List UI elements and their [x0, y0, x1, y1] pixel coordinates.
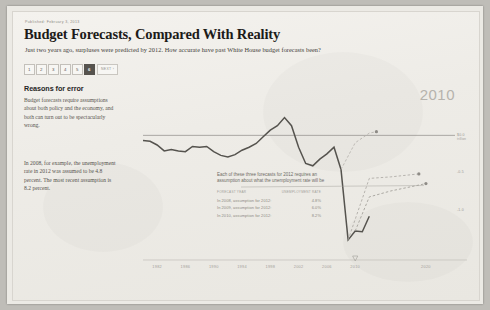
forecast-endpoint-marker [417, 172, 420, 175]
assumption-table: FORECAST YEAR UNEMPLOYMENT RATE In 2008,… [217, 191, 321, 219]
screenshot-root: Published: February 3, 2013 Budget Forec… [0, 0, 490, 310]
page-button-4[interactable]: 4 [60, 64, 71, 75]
y-tick-label: $0.0trillion [457, 133, 466, 141]
next-page-button[interactable]: NEXT › [97, 64, 118, 75]
unemployment-rate-cell: 8.2% [277, 211, 321, 218]
forecast-label-cell: In 2009, assumption for 2012: [217, 204, 277, 211]
x-tick-label: 2020 [421, 264, 431, 269]
assumption-rows: In 2008, assumption for 2012:4.8%In 2009… [217, 197, 321, 219]
unemployment-rate-cell: 6.0% [277, 204, 321, 211]
sidebar-paragraph-1: Budget forecasts require assumptions abo… [24, 96, 118, 130]
x-tick-label: 1994 [237, 264, 247, 269]
forecast-label-cell: In 2008, assumption for 2012: [217, 197, 277, 204]
y-tick-label: -1.0 [457, 208, 464, 212]
chart-annotation: Each of these three forecasts for 2012 r… [217, 172, 329, 219]
forecast-endpoint-marker [375, 130, 378, 133]
annotation-text: Each of these three forecasts for 2012 r… [217, 172, 329, 185]
series-line-3 [341, 132, 376, 170]
table-row: In 2009, assumption for 2012:6.0% [217, 204, 321, 211]
unemployment-rate-cell: 4.8% [277, 197, 321, 204]
x-tick-label: 2006 [322, 264, 332, 269]
sidebar-heading: Reasons for error [24, 84, 83, 93]
x-tick-label: 1998 [265, 264, 275, 269]
x-tick-label: 1982 [152, 264, 162, 269]
x-tick-label: 1990 [209, 264, 219, 269]
page-subtitle: Just two years ago, surpluses were predi… [25, 46, 321, 53]
y-tick-label: -0.5 [457, 170, 464, 174]
page-button-5[interactable]: 5 [72, 64, 83, 75]
x-tick-label: 2010 [350, 264, 360, 269]
page-button-2[interactable]: 2 [36, 64, 47, 75]
table-row: In 2008, assumption for 2012:4.8% [217, 197, 321, 204]
x-tick-label: 2002 [294, 264, 304, 269]
table-row: In 2010, assumption for 2012:8.2% [217, 211, 321, 218]
highlight-year-label: 2010 [420, 86, 455, 103]
sidebar-paragraph-2: In 2008, for example, the unemployment r… [24, 159, 118, 193]
page-button-6-active[interactable]: 6 [84, 64, 95, 75]
page-button-3[interactable]: 3 [48, 64, 59, 75]
x-tick-label: 1986 [181, 264, 191, 269]
publish-date: Published: February 3, 2013 [25, 20, 80, 24]
page-button-1[interactable]: 1 [24, 64, 35, 75]
series-line-2 [348, 174, 419, 240]
pagination[interactable]: 1 2 3 4 5 6 NEXT › [24, 64, 118, 75]
page-title: Budget Forecasts, Compared With Reality [24, 26, 280, 43]
paper-background: Published: February 3, 2013 Budget Forec… [7, 6, 483, 304]
forecast-label-cell: In 2010, assumption for 2012: [217, 211, 277, 218]
forecast-endpoint-marker [424, 182, 427, 185]
article-sheet: Published: February 3, 2013 Budget Forec… [12, 11, 480, 301]
